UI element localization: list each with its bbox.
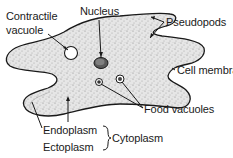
label-ectoplasm: Ectoplasm [43,141,93,153]
label-cytoplasm: Cytoplasm [112,132,163,144]
label-contractile-vacuole-2: vacuole [6,24,43,36]
label-nucleus: Nucleus [80,5,119,17]
label-cell-membrane: Cell membrane [177,64,233,76]
cytoplasm-brace [103,126,111,150]
label-pseudopods: Pseudopods [166,16,226,28]
label-food-vacuoles: Food vacuoles [144,103,214,115]
label-contractile-vacuole-1: Contractile [6,10,57,22]
label-endoplasm: Endoplasm [43,124,97,136]
